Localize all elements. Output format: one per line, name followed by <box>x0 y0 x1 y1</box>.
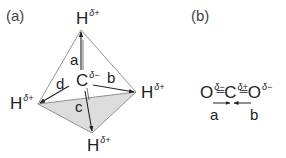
bond-label-d: d <box>56 76 64 91</box>
bond-label-b: b <box>107 70 115 85</box>
atom-h-bottom: Hδ+ <box>87 137 111 154</box>
panel-label-b: (b) <box>191 8 209 23</box>
atom-o-right: O <box>248 83 261 102</box>
double-bond-left: ═ <box>217 85 225 97</box>
diagram-graphics <box>0 0 286 158</box>
co2-bond-label-a: a <box>210 107 218 122</box>
atom-c: C <box>224 83 236 102</box>
atom-h-right: Hδ+ <box>141 84 165 101</box>
co2-bond-label-b: b <box>250 107 258 122</box>
panel-label-a: (a) <box>6 8 24 23</box>
figure: (a) Hδ+ Hδ+ Hδ+ Hδ+ Cδ− a b c d (b) Oδ−═… <box>0 0 286 158</box>
bond-label-a: a <box>70 52 78 67</box>
atom-h-left: Hδ+ <box>10 95 34 112</box>
atom-c-center: Cδ− <box>76 72 100 89</box>
atom-h-top: Hδ+ <box>76 10 100 27</box>
co2-formula: Oδ−═Cδ+═Oδ− <box>200 84 272 101</box>
double-bond-right: ═ <box>240 85 248 97</box>
atom-o-left: O <box>200 83 213 102</box>
bond-label-c: c <box>75 99 83 114</box>
